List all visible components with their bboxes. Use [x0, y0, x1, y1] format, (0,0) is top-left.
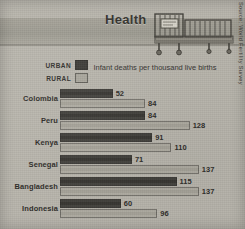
bar-group: Colombia5284 — [0, 88, 245, 110]
infographic-page: Health — [0, 0, 245, 229]
hospital-bed-icon — [149, 6, 241, 56]
bar-value-label: 137 — [202, 165, 215, 174]
legend-item-rural: RURAL — [22, 73, 88, 83]
bar-pair: 5284 — [60, 89, 245, 109]
bar-row: 96 — [60, 209, 245, 218]
bar-pair: 115137 — [60, 177, 245, 197]
bar-urban — [60, 111, 145, 120]
bar-urban — [60, 133, 152, 142]
bar-value-label: 96 — [160, 209, 168, 218]
bar-value-label: 71 — [135, 155, 143, 164]
bar-rural — [60, 165, 199, 174]
bar-row: 84 — [60, 111, 245, 120]
category-label: Kenya — [0, 138, 58, 147]
bar-pair: 91110 — [60, 133, 245, 153]
category-label: Indonesia — [0, 204, 58, 213]
bar-value-label: 60 — [124, 199, 132, 208]
category-label: Colombia — [0, 94, 58, 103]
bar-row: 128 — [60, 121, 245, 130]
source-credit: Source: World Fertility Survey — [238, 2, 244, 84]
bar-urban — [60, 177, 177, 186]
bar-row: 110 — [60, 143, 245, 152]
chart-title: Infant deaths per thousand live births — [92, 63, 218, 73]
bar-value-label: 110 — [174, 143, 186, 152]
legend-label-rural: RURAL — [46, 75, 71, 82]
category-label: Peru — [0, 116, 58, 125]
bar-rural — [60, 209, 157, 218]
bar-value-label: 91 — [155, 133, 163, 142]
category-label: Bangladesh — [0, 182, 58, 191]
bar-pair: 6096 — [60, 199, 245, 219]
legend-swatch-urban — [75, 60, 88, 70]
bar-row: 91 — [60, 133, 245, 142]
bar-value-label: 115 — [180, 177, 192, 186]
bar-value-label: 84 — [148, 111, 156, 120]
bar-value-label: 128 — [193, 121, 206, 130]
bar-group: Indonesia6096 — [0, 198, 245, 220]
bar-pair: 71137 — [60, 155, 245, 175]
bar-urban — [60, 155, 132, 164]
bar-row: 137 — [60, 187, 245, 196]
category-label: Senegal — [0, 160, 58, 169]
bar-rural — [60, 121, 190, 130]
legend: URBAN RURAL — [22, 60, 88, 86]
bar-row: 52 — [60, 89, 245, 98]
bar-pair: 84128 — [60, 111, 245, 131]
bar-row: 84 — [60, 99, 245, 108]
bar-urban — [60, 89, 113, 98]
header-band: Health — [0, 0, 245, 57]
bar-value-label: 84 — [148, 99, 156, 108]
bar-urban — [60, 199, 121, 208]
bar-group: Peru84128 — [0, 110, 245, 132]
legend-label-urban: URBAN — [46, 62, 71, 69]
bar-group: Senegal71137 — [0, 154, 245, 176]
bar-chart: Colombia5284Peru84128Kenya91110Senegal71… — [0, 88, 245, 224]
legend-item-urban: URBAN — [22, 60, 88, 70]
bar-value-label: 52 — [116, 89, 124, 98]
legend-swatch-rural — [75, 73, 88, 83]
bar-rural — [60, 99, 145, 108]
bar-group: Kenya91110 — [0, 132, 245, 154]
page-title: Health — [105, 12, 147, 27]
bar-value-label: 137 — [202, 187, 215, 196]
bar-row: 60 — [60, 199, 245, 208]
bar-group: Bangladesh115137 — [0, 176, 245, 198]
bar-row: 137 — [60, 165, 245, 174]
bar-row: 71 — [60, 155, 245, 164]
bar-rural — [60, 187, 199, 196]
bar-row: 115 — [60, 177, 245, 186]
bar-rural — [60, 143, 171, 152]
